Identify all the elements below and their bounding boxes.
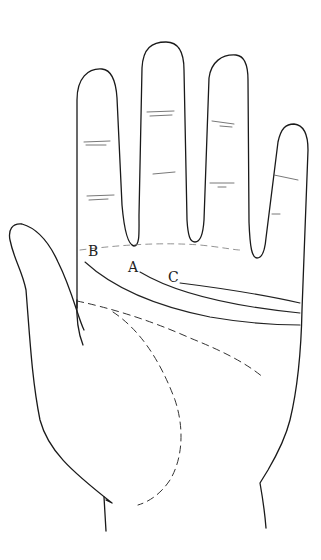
- dashed-diagonal-line: [77, 301, 264, 378]
- palm-drawing: B A C: [0, 0, 321, 560]
- line-c: [180, 283, 300, 303]
- finger-base-line: [80, 244, 240, 250]
- thumb-outline: [10, 224, 113, 503]
- label-b: B: [88, 243, 98, 259]
- palm-diagram: B A C: [0, 0, 321, 560]
- finger-creases: [84, 111, 298, 214]
- dashed-thumb-curve: [113, 312, 181, 505]
- label-a: A: [127, 259, 139, 275]
- line-a: [140, 272, 300, 313]
- label-c: C: [168, 269, 179, 285]
- wrist-left: [104, 497, 106, 531]
- palm-left-edge: [77, 300, 83, 345]
